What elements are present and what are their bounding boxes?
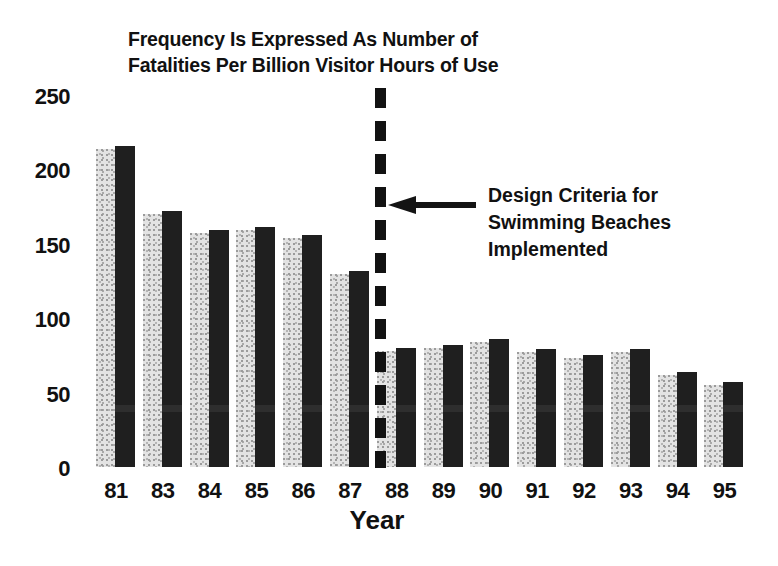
- x-axis-tick-94: 94: [655, 478, 701, 504]
- annotation-line-3: Implemented: [488, 236, 738, 263]
- x-axis-tick-83: 83: [140, 478, 186, 504]
- bar-shadow-face: [564, 358, 583, 467]
- bar: [489, 339, 509, 467]
- bar-shadow-face: [424, 348, 443, 467]
- bar: [396, 348, 416, 467]
- bar-shadow-face: [143, 214, 162, 467]
- bar: [115, 146, 135, 467]
- bar-group: [517, 346, 556, 467]
- bar-group: [470, 336, 509, 467]
- bar-group: [236, 224, 275, 467]
- x-axis-tick-91: 91: [514, 478, 560, 504]
- bar: [209, 230, 229, 467]
- bar-shadow-face: [611, 352, 630, 467]
- x-axis-tick-86: 86: [280, 478, 326, 504]
- bar-group: [564, 352, 603, 467]
- bar-group: [704, 379, 743, 467]
- x-axis-tick-81: 81: [93, 478, 139, 504]
- chart-figure: Frequency Is Expressed As Number of Fata…: [0, 0, 778, 566]
- bar-group: [143, 208, 182, 467]
- bar: [349, 271, 369, 467]
- bar-group: [190, 227, 229, 467]
- bar-shadow-face: [470, 342, 489, 467]
- bar: [723, 382, 743, 467]
- bar: [443, 345, 463, 467]
- bar-group: [658, 369, 697, 467]
- bar: [302, 235, 322, 467]
- bar-shadow-face: [190, 233, 209, 467]
- bar: [583, 355, 603, 467]
- bar: [630, 349, 650, 467]
- x-axis-tick-87: 87: [327, 478, 373, 504]
- bar-group: [330, 268, 369, 467]
- bar: [255, 227, 275, 467]
- annotation-arrow-icon: [386, 196, 478, 214]
- x-axis-tick-84: 84: [187, 478, 233, 504]
- x-axis-tick-88: 88: [374, 478, 420, 504]
- bar: [677, 372, 697, 467]
- bar-shadow-face: [283, 238, 302, 467]
- bar-shadow-face: [330, 274, 349, 467]
- design-criteria-annotation-text: Design Criteria for Swimming Beaches Imp…: [488, 182, 738, 263]
- x-axis-tick-89: 89: [421, 478, 467, 504]
- bar: [162, 211, 182, 467]
- x-axis-tick-95: 95: [701, 478, 747, 504]
- annotation-line-1: Design Criteria for: [488, 182, 738, 209]
- x-axis-tick-92: 92: [561, 478, 607, 504]
- bar-shadow-face: [704, 385, 723, 467]
- x-axis-tick-85: 85: [233, 478, 279, 504]
- x-axis-title: Year: [0, 505, 778, 536]
- bar-shadow-face: [96, 149, 115, 467]
- bar-group: [424, 342, 463, 467]
- bar: [536, 349, 556, 467]
- bar-shadow-face: [517, 352, 536, 467]
- design-criteria-dashed-line: [375, 88, 386, 468]
- annotation-line-2: Swimming Beaches: [488, 209, 738, 236]
- x-axis-tick-93: 93: [608, 478, 654, 504]
- bar-shadow-face: [236, 230, 255, 467]
- bar-shadow-face: [658, 375, 677, 467]
- bar-group: [283, 232, 322, 467]
- bar-group: [96, 143, 135, 467]
- x-axis-tick-90: 90: [467, 478, 513, 504]
- bar-group: [611, 346, 650, 467]
